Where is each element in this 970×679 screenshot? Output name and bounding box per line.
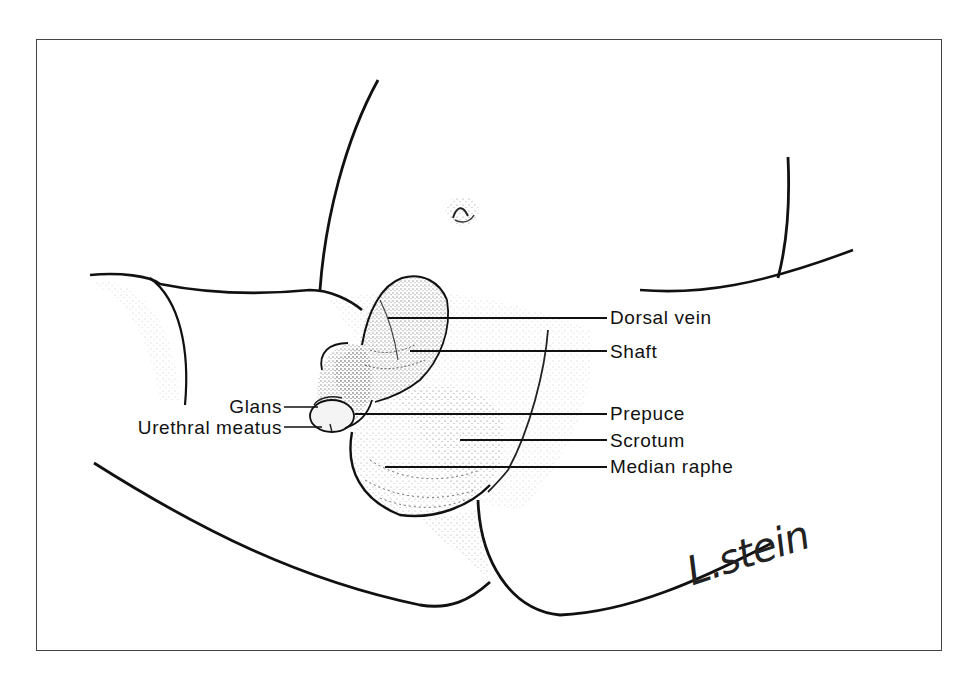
leader-lines <box>0 0 970 679</box>
anatomical-figure: Dorsal vein Shaft Prepuce Scrotum Median… <box>0 0 970 679</box>
